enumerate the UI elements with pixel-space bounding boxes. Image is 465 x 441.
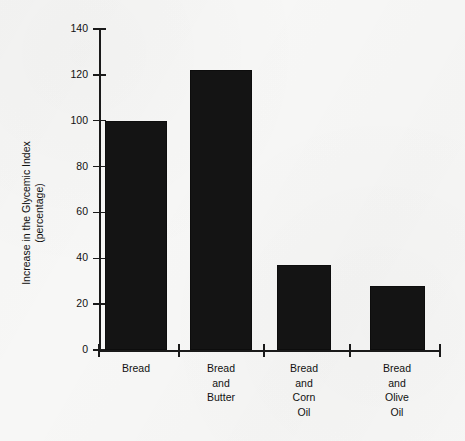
- y-tick-label-text: 80: [54, 161, 88, 171]
- y-tick-label-text: 100: [54, 115, 88, 125]
- y-tick-label-text: 60: [54, 206, 88, 216]
- y-tick-label-120: 120: [50, 69, 88, 79]
- x-category-label-1: Bread and Butter: [176, 361, 266, 405]
- glycemic-index-bar-chart: Increase in the Glycemic Index (percenta…: [0, 0, 465, 441]
- y-tick-label-80: 80: [50, 161, 88, 171]
- x-tick-1: [178, 344, 180, 357]
- bar-2[interactable]: [277, 265, 331, 350]
- y-tick-label-40: 40: [50, 252, 88, 262]
- y-axis-title: Increase in the Glycemic Index (percenta…: [20, 118, 46, 308]
- y-tick-label-text: 120: [54, 69, 88, 79]
- y-tick-140: [93, 28, 106, 30]
- y-tick-label-140: 140: [50, 23, 88, 33]
- y-tick-label-60: 60: [50, 206, 88, 216]
- plot-area: Increase in the Glycemic Index (percenta…: [0, 0, 465, 441]
- bar-1[interactable]: [190, 70, 252, 350]
- bar-0[interactable]: [105, 121, 167, 350]
- y-tick-label-text: 140: [54, 23, 88, 33]
- y-tick-label-100: 100: [50, 115, 88, 125]
- y-axis-title-line1: Increase in the Glycemic Index: [20, 141, 32, 285]
- x-tick-0: [98, 344, 100, 357]
- bar-3[interactable]: [370, 286, 425, 350]
- x-category-label-0: Bread: [91, 361, 181, 376]
- x-tick-4: [439, 344, 441, 357]
- y-tick-120: [93, 74, 106, 76]
- y-tick-label-text: 40: [54, 252, 88, 262]
- y-tick-label-text: 20: [54, 298, 88, 308]
- x-axis-line: [99, 350, 441, 352]
- y-tick-label-0: 0: [50, 344, 88, 354]
- y-axis-title-line2: (percentage): [33, 118, 46, 308]
- x-category-label-3: Bread and Olive Oil: [352, 361, 442, 419]
- x-tick-2: [263, 344, 265, 357]
- x-category-label-2: Bread and Corn Oil: [259, 361, 349, 419]
- y-tick-label-20: 20: [50, 298, 88, 308]
- y-tick-label-text: 0: [54, 344, 88, 354]
- x-tick-3: [349, 344, 351, 357]
